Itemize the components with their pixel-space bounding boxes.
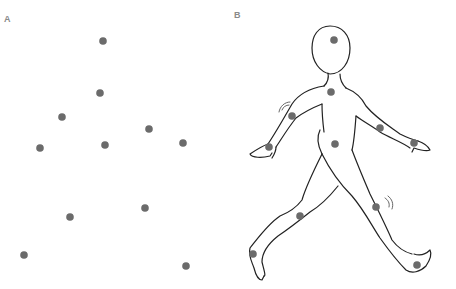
point-light-dot: [20, 251, 28, 259]
joint-dot-left-ankle: [249, 250, 257, 258]
joint-dot-head: [330, 36, 338, 44]
joint-dot-neck: [327, 88, 335, 96]
point-light-dot: [58, 113, 66, 121]
point-light-dot: [141, 204, 149, 212]
point-light-dot: [96, 89, 104, 97]
point-light-dot: [99, 37, 107, 45]
walking-figure-outline: [249, 26, 430, 280]
joint-dot-hip: [331, 140, 339, 148]
joint-dot-left-elbow: [288, 112, 296, 120]
joint-dot-left-wrist: [265, 143, 273, 151]
joint-dot-right-knee: [372, 203, 380, 211]
point-light-dot: [101, 141, 109, 149]
joint-dot-right-wrist: [410, 139, 418, 147]
point-light-dot: [66, 213, 74, 221]
point-light-dot: [36, 144, 44, 152]
joint-dot-right-elbow: [376, 124, 384, 132]
point-light-dot: [182, 262, 190, 270]
panel-a-dots: [20, 37, 190, 270]
joint-dot-right-ankle: [413, 261, 421, 269]
joint-dot-left-knee: [296, 212, 304, 220]
diagram-canvas: [0, 0, 456, 289]
point-light-dot: [145, 125, 153, 133]
point-light-dot: [179, 139, 187, 147]
